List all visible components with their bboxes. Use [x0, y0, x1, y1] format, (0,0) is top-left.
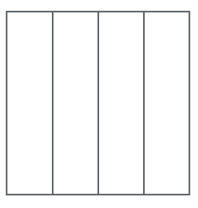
diagram-canvas	[0, 0, 198, 208]
panel-3[interactable]	[98, 12, 144, 195]
panel-2[interactable]	[53, 12, 99, 195]
panel-4[interactable]	[144, 12, 190, 195]
panel-1[interactable]	[7, 12, 53, 195]
